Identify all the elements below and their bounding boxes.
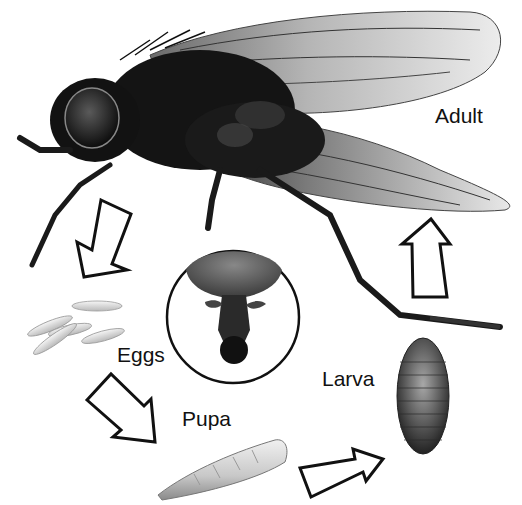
mid-leg (208, 170, 220, 228)
eggs (26, 301, 126, 358)
stage-label-eggs: Eggs (117, 344, 165, 365)
arrow-eggs-to-pupa (87, 374, 155, 442)
arrow-pupa-to-larva (300, 449, 383, 497)
arrow-adult-to-eggs (77, 200, 131, 277)
larva (397, 338, 449, 454)
magnified-inset (167, 251, 299, 383)
diagram-artwork (0, 0, 522, 505)
stage-label-larva: Larva (322, 368, 375, 389)
compound-eye (65, 88, 119, 148)
stage-label-adult: Adult (435, 105, 483, 126)
pupa (158, 440, 287, 500)
arrow-larva-to-adult (402, 219, 450, 297)
life-cycle-diagram: Adult Eggs Pupa Larva (0, 0, 522, 505)
stage-label-pupa: Pupa (182, 408, 231, 429)
